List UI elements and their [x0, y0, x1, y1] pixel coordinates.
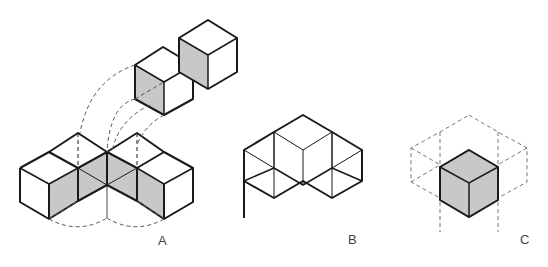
- figure-b: [244, 115, 362, 218]
- figure-a: [20, 20, 237, 227]
- figure-c-label: C: [520, 232, 529, 247]
- figure-b-label: B: [348, 232, 357, 247]
- figure-a-label: A: [158, 233, 167, 248]
- diagram-canvas: [0, 0, 548, 267]
- figure-c: [411, 115, 527, 232]
